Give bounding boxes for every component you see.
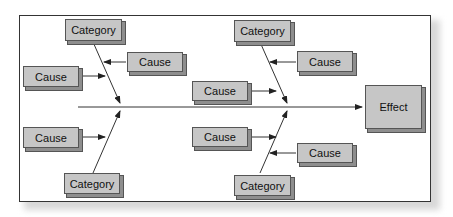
bone-bottom-left bbox=[93, 111, 120, 173]
cause-box-top-left-outer: Cause bbox=[23, 66, 79, 87]
category-box-bottom-left: Category bbox=[64, 173, 120, 194]
cause-box-bottom-right-inner: Cause bbox=[192, 127, 248, 147]
category-box-top-right: Category bbox=[234, 20, 291, 42]
cause-box-top-right-outer: Cause bbox=[297, 51, 353, 72]
effect-box: Effect bbox=[365, 85, 422, 129]
cause-box-bottom-left-outer: Cause bbox=[23, 127, 79, 148]
bone-top-left bbox=[93, 42, 120, 103]
category-box-top-left: Category bbox=[65, 19, 122, 41]
cause-box-top-left-inner: Cause bbox=[127, 52, 183, 72]
bone-bottom-right bbox=[260, 111, 287, 173]
cause-box-bottom-right-outer: Cause bbox=[297, 143, 353, 163]
category-box-bottom-right: Category bbox=[234, 175, 291, 196]
bone-top-right bbox=[260, 42, 287, 103]
cause-box-top-right-inner: Cause bbox=[192, 81, 248, 101]
